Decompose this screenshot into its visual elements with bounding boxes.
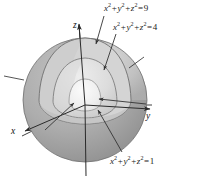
spheres-illustration	[0, 0, 199, 177]
x-axis-label: x	[11, 126, 15, 136]
eq-middle-value: 4	[153, 22, 158, 32]
equation-middle-sphere: x2+y2+z2=4	[113, 22, 157, 32]
y-axis-label: y	[146, 111, 150, 121]
equation-outer-sphere: x2+y2+z2=9	[104, 3, 148, 13]
spheres-figure: x2+y2+z2=9 x2+y2+z2=4 x2+y2+z2=1 z y x	[0, 0, 199, 177]
z-axis-label: z	[73, 20, 77, 30]
equation-inner-sphere: x2+y2+z2=1	[110, 156, 154, 166]
eq-outer-value: 9	[144, 3, 149, 13]
negative-y-axis-stub	[4, 76, 24, 80]
eq-inner-value: 1	[150, 156, 155, 166]
